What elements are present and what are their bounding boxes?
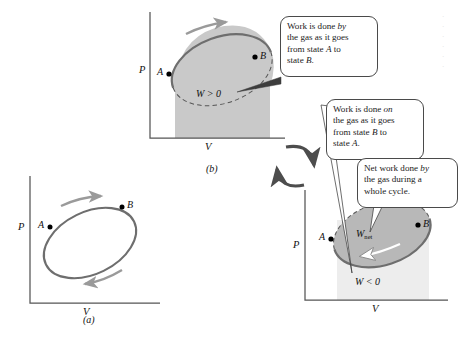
callout-by-line-1: Work is done by (287, 21, 372, 32)
physics-figure-pv-diagrams: P V A B (a) P V A B W > 0 (b) P V A B Wn… (0, 0, 463, 337)
panel-c-y-axis-label: P (293, 239, 299, 250)
callout-net-work: Net work done by the gas during a whole … (357, 158, 458, 208)
cycle-rotation-arrows (277, 146, 314, 186)
callout-net-emphasis-1: by (420, 163, 429, 173)
panel-c-x-axis-label: V (372, 303, 378, 314)
panel-b-graph (150, 12, 285, 138)
page-edge-fragment: ······ (442, 12, 462, 72)
panel-b-point-a-marker (166, 71, 171, 76)
panel-b-point-b-marker (252, 54, 257, 59)
panel-c-net-work-subscript: net (364, 233, 372, 240)
panel-c-net-work-label: Wnet (356, 228, 372, 239)
panel-a-graph (30, 176, 160, 303)
callout-on-line-2: the gas as it goes (333, 115, 418, 126)
callout-on-emphasis-3: A (352, 138, 358, 148)
panel-b-caption: (b) (206, 163, 218, 174)
callout-on-emphasis-2: B (372, 127, 378, 137)
callout-by-line-4: state B. (287, 55, 372, 66)
panel-b-y-axis-label: P (139, 64, 145, 75)
panel-a-point-a-marker (48, 225, 53, 230)
panel-c-work-label: W < 0 (355, 276, 380, 287)
panel-a-point-b-marker (120, 205, 125, 210)
panel-c-point-a-label: A (319, 231, 325, 242)
panel-a-arrow-forward (61, 196, 101, 206)
callout-work-done-on: Work is done on the gas as it goes from … (326, 99, 424, 160)
cycle-arrow-left (277, 169, 304, 186)
panel-a-point-a-label: A (38, 219, 44, 230)
panel-c-point-b-marker (415, 222, 420, 227)
panel-a-point-b-label: B (127, 199, 133, 210)
panel-b-shaded-region (162, 21, 282, 138)
callout-by-emphasis-3: B (306, 55, 312, 65)
callout-net-line-2: the gas during a (364, 174, 452, 185)
callout-on-line-3: from state B to (333, 127, 418, 138)
callout-by-emphasis-2: A (326, 44, 332, 54)
panel-c-point-b-label: B (423, 218, 429, 229)
panel-c-point-a-marker (328, 236, 333, 241)
panel-a-arrow-return (85, 270, 122, 284)
cycle-arrow-right (286, 146, 314, 165)
callout-on-line-4: state A. (333, 138, 418, 149)
panel-b-point-a-label: A (157, 66, 163, 77)
callout-on-line-1: Work is done on (333, 104, 418, 115)
panel-a-y-axis-label: P (18, 221, 24, 232)
callout-work-done-by: Work is done by the gas as it goes from … (280, 16, 378, 77)
panel-b-point-b-label: B (260, 50, 266, 61)
callout-by-emphasis-1: by (338, 21, 347, 31)
callout-on-emphasis-1: on (384, 104, 393, 114)
panel-b-work-label: W > 0 (196, 88, 221, 99)
panel-b-x-axis-label: V (205, 141, 211, 152)
callout-by-line-2: the gas as it goes (287, 32, 372, 43)
callout-by-line-3: from state A to (287, 44, 372, 55)
panel-a-caption: (a) (83, 314, 95, 325)
callout-net-line-1: Net work done by (364, 163, 452, 174)
callout-net-line-3: whole cycle. (364, 186, 452, 197)
